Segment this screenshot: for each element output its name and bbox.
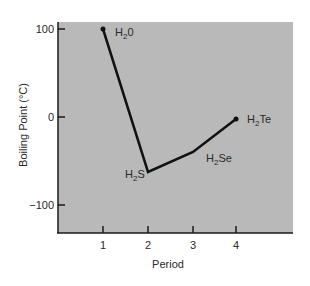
x-axis-title: Period <box>152 258 184 270</box>
y-tick-label: 0 <box>48 111 54 123</box>
x-tick-label: 3 <box>190 239 196 251</box>
y-axis-title: Boiling Point (°C) <box>17 83 29 167</box>
y-tick-label: −100 <box>29 199 54 211</box>
data-point-h2o <box>101 27 106 32</box>
boiling-point-chart: 100 0 −100 1 2 3 4 Period Boiling Point … <box>0 0 310 286</box>
x-tick-label: 2 <box>145 239 151 251</box>
x-tick-label: 4 <box>233 239 239 251</box>
data-point-h2te <box>234 117 239 122</box>
y-tick-label: 100 <box>36 23 54 35</box>
x-tick-label: 1 <box>100 239 106 251</box>
